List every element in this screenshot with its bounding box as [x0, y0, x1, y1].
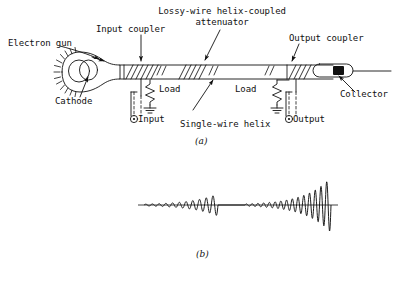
figure-page: Electron gun Cathode Input coupler Input… — [0, 0, 402, 284]
waveform-svg — [0, 0, 402, 284]
waveform-trace — [144, 182, 331, 231]
figure-caption-b: (b) — [196, 249, 209, 259]
